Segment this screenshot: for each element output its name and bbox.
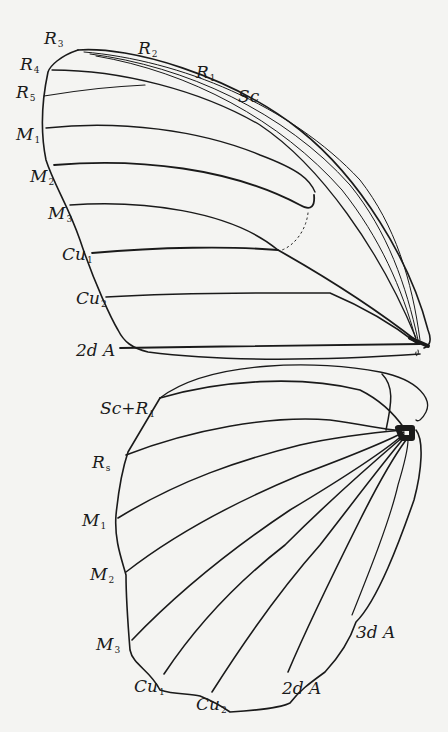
label-hindwing-m1: M1 <box>82 512 106 531</box>
label-hindwing-rs: Rs <box>92 454 110 473</box>
hindwing <box>116 365 428 712</box>
label-forewing-2da: 2d A <box>76 342 116 361</box>
label-forewing-r5: R5 <box>16 84 36 103</box>
label-hindwing-cu2: Cu2 <box>196 696 227 715</box>
label-forewing-r2: R2 <box>138 40 158 59</box>
label-hindwing-sc-r1: Sc+R1 <box>100 400 155 419</box>
label-hindwing-m3: M3 <box>96 636 120 655</box>
label-forewing-cu1: Cu1 <box>62 246 93 265</box>
forewing <box>42 50 430 359</box>
label-forewing-m3: M3 <box>48 205 72 224</box>
label-forewing-r3: R3 <box>44 30 64 49</box>
label-forewing-m2: M2 <box>30 168 54 187</box>
label-hindwing-3da: 3d A <box>356 624 396 643</box>
label-hindwing-m2: M2 <box>90 566 114 585</box>
wing-venation-figure: R3 R2 R1 Sc R4 R5 M1 M2 M3 Cu1 Cu2 2d A … <box>0 0 448 732</box>
label-hindwing-cu1: Cu1 <box>134 678 165 697</box>
label-forewing-m1: M1 <box>16 126 40 145</box>
label-forewing-r4: R4 <box>20 56 40 75</box>
label-hindwing-2da: 2d A <box>282 680 322 699</box>
label-forewing-r1: R1 <box>196 64 216 83</box>
label-forewing-cu2: Cu2 <box>76 290 107 309</box>
label-forewing-sc: Sc <box>238 88 260 107</box>
